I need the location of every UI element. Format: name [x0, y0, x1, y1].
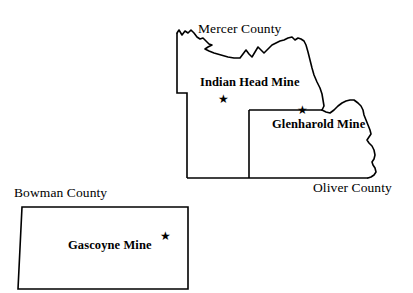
mine-label-gascoyne: Gascoyne Mine: [68, 239, 152, 252]
county-label-mercer: Mercer County: [198, 22, 281, 36]
county-label-oliver: Oliver County: [313, 181, 392, 195]
mine-label-indian-head: Indian Head Mine: [200, 76, 300, 89]
mine-label-glenharold: Glenharold Mine: [272, 118, 365, 131]
star-icon-glenharold-mine: ★: [297, 104, 308, 116]
county-label-bowman: Bowman County: [14, 186, 107, 200]
mercer-west-boundary: [177, 33, 187, 178]
star-icon-gascoyne-mine: ★: [160, 230, 171, 242]
star-icon-indian-head-mine: ★: [218, 93, 229, 105]
oliver-east-boundary: [322, 100, 376, 178]
county-mine-map: Mercer County Oliver County Bowman Count…: [0, 0, 413, 293]
map-outline-svg: [0, 0, 413, 293]
mercer-county-boundary: [177, 30, 324, 110]
